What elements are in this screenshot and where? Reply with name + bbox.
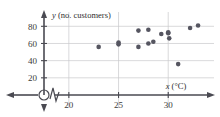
y-axis-title: y (no. customers) [51, 10, 111, 20]
x-tick-label: 30 [164, 100, 174, 110]
axis-break-icon [50, 88, 59, 101]
y-tick-label: 80 [28, 22, 38, 32]
data-point [146, 41, 151, 46]
data-point [196, 23, 201, 28]
x-tick-label: 25 [114, 100, 124, 110]
data-point [151, 39, 156, 44]
y-axis-arrow-down [41, 104, 47, 112]
y-axis-arrow-up [41, 10, 47, 18]
x-axis-title: x (°C) [165, 81, 187, 91]
data-point [188, 26, 193, 31]
data-point [159, 32, 164, 37]
y-tick-label: 20 [28, 73, 38, 83]
y-tick-label: 40 [28, 56, 38, 66]
data-point [96, 45, 101, 50]
tick-labels-group: 20406080202530 [28, 22, 173, 110]
y-tick-label: 60 [28, 39, 38, 49]
x-tick-label: 20 [64, 100, 74, 110]
data-point [136, 45, 141, 50]
data-point [146, 27, 151, 32]
data-point [167, 36, 172, 41]
chart-canvas: 20406080202530 y (no. customers) x (°C) [0, 0, 220, 117]
data-point [166, 31, 171, 36]
tick-marks-group [41, 26, 168, 98]
x-axis-arrow-left [6, 92, 14, 98]
data-points-group [96, 23, 200, 66]
data-point [136, 28, 141, 33]
x-axis-arrow-right [207, 92, 215, 98]
data-point [116, 42, 121, 47]
scatter-chart: 20406080202530 y (no. customers) x (°C) [0, 0, 220, 117]
data-point [176, 62, 181, 67]
